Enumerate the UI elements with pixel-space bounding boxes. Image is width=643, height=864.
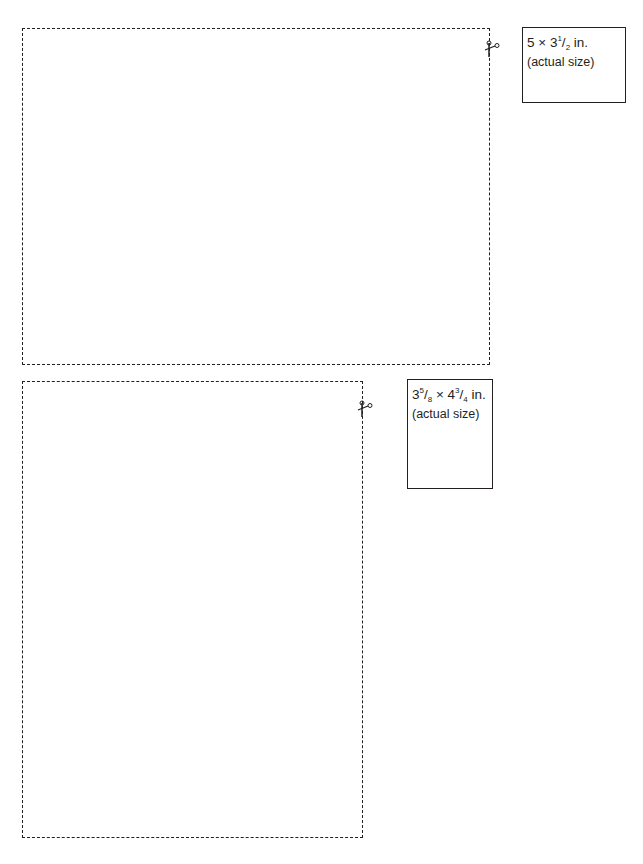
- size-dimensions: 5 × 31/2 in.: [527, 31, 621, 55]
- size-label-5x3-5: 5 × 31/2 in. (actual size): [522, 27, 626, 103]
- cut-line-box-3-625x4-75: [22, 381, 363, 838]
- scissors-icon: [484, 40, 500, 58]
- size-note: (actual size): [412, 407, 488, 421]
- scissors-icon: [357, 400, 373, 418]
- size-note: (actual size): [527, 55, 621, 69]
- size-label-3-625x4-75: 35/8 × 43/4 in. (actual size): [407, 379, 493, 489]
- size-dimensions: 35/8 × 43/4 in.: [412, 383, 488, 407]
- cut-line-box-5x3-5: [22, 28, 490, 365]
